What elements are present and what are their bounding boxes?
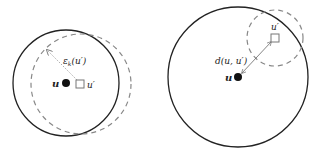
right-point-u-dot — [234, 73, 242, 81]
left-point-u-prime-square — [76, 80, 84, 88]
left-radius-label: εk(u′) — [63, 56, 87, 67]
left-label-u: u — [52, 78, 59, 89]
left-panel: u u′ εk(u′) — [13, 30, 131, 136]
right-label-u-prime: u′ — [271, 22, 279, 32]
right-label-u: u — [225, 72, 232, 83]
left-point-u-dot — [62, 79, 70, 87]
right-point-u-prime-square — [271, 34, 279, 42]
right-distance-label: d(u, u′) — [215, 56, 248, 66]
right-panel: u u′ d(u, u′) — [168, 7, 308, 147]
left-label-u-prime: u′ — [87, 80, 95, 90]
diagram-canvas: u u′ εk(u′) u u′ d(u, u′) — [0, 0, 318, 160]
